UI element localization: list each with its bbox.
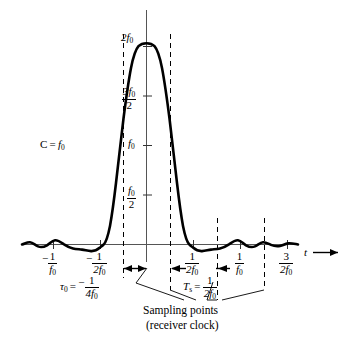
y-label-f0: f0 [128, 138, 135, 151]
x-label-1-over-f0: 1 f0 [235, 251, 244, 276]
leader-line-2 [136, 283, 184, 300]
x-label-3-over-2f0: 3 2f0 [279, 251, 293, 276]
axes-group [22, 10, 338, 262]
correlation-waveform-figure: 2f0 3f0 2 f0 f0 2 − 1 f0 − 1 2f0 1 2f0 [0, 0, 345, 341]
sampling-points-caption-line1: Sampling points [143, 305, 218, 317]
plot-svg [0, 0, 345, 341]
x-axis-label-t: t [304, 247, 307, 258]
ts-arrow-head-right [218, 265, 227, 272]
y-tick-marks [143, 47, 152, 196]
y-label-f0-over-2: f0 2 [127, 185, 136, 210]
leader-line-5 [222, 290, 264, 300]
tau0-arrow-head-left [124, 265, 132, 272]
tau0-arrow [124, 265, 146, 272]
tau0-annotation: τ0 = − 1 4f0 [60, 275, 99, 300]
x-label-neg-1-over-f0: − 1 f0 [42, 251, 57, 276]
ts-arrow [171, 265, 230, 272]
x-label-neg-1-over-2f0: − 1 2f0 [86, 251, 107, 276]
sampling-points-caption-line2: (receiver clock) [146, 320, 218, 332]
x-label-1-over-2f0: 1 2f0 [185, 251, 199, 276]
y-label-2f0: 2f0 [121, 32, 133, 45]
t-axis-arrow-head [330, 249, 338, 256]
y-label-3f0-over-2: 3f0 2 [122, 86, 136, 111]
ts-arrow-head-left [171, 265, 180, 272]
ts-annotation: Ts = 1 2f0 [183, 275, 217, 300]
constant-annotation: C = f0 [40, 139, 65, 152]
